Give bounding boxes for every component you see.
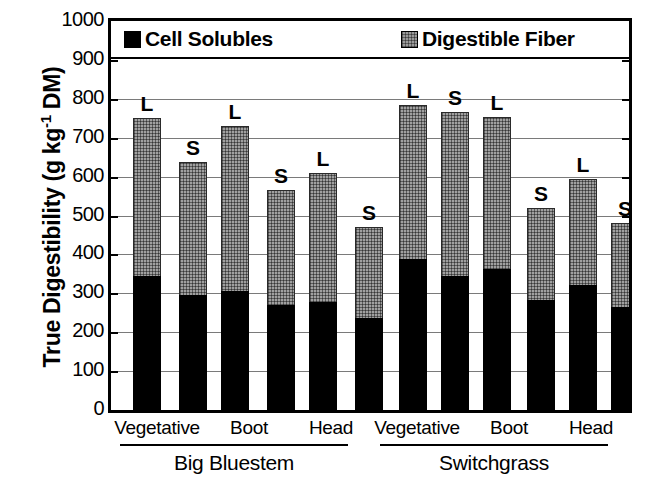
legend-label-cell-solubles: Cell Solubles (145, 27, 273, 51)
group-label-switchgrass: Switchgrass (380, 449, 608, 477)
bar-value-label-switchgrass-boot-l: L (482, 92, 512, 113)
y-tick-label-800: 800 (52, 87, 104, 107)
bar-segment-cell-solubles (133, 276, 161, 410)
bar-segment-cell-solubles (309, 302, 337, 410)
bar-switchgrass-vegetative-s (441, 112, 469, 410)
y-axis-tick-200 (111, 332, 118, 334)
y-tick-label-500: 500 (52, 204, 104, 224)
bar-big-bluestem-vegetative-s (179, 162, 207, 410)
bar-segment-cell-solubles (441, 276, 469, 410)
chart-legend: Cell Solubles Digestible Fiber (111, 21, 629, 59)
bar-big-bluestem-head-s (355, 227, 383, 410)
group-label-big-bluestem: Big Bluestem (120, 449, 348, 477)
gridline-800 (111, 99, 629, 100)
bar-value-label-big-bluestem-boot-l: L (220, 101, 250, 122)
bar-value-label-switchgrass-head-l: L (568, 154, 598, 175)
legend-swatch-cell-solubles (124, 31, 141, 48)
bar-segment-cell-solubles (611, 307, 629, 410)
y-axis-tick-900 (111, 60, 118, 62)
plot-area: LSLSLSLSLSLS Cell Solubles Digestible Fi… (108, 18, 632, 413)
y-axis-tick-500 (111, 216, 118, 218)
bar-value-label-switchgrass-vegetative-l: L (398, 80, 428, 101)
y-axis-tick-right-700 (622, 138, 629, 140)
bar-segment-cell-solubles (221, 291, 249, 410)
legend-label-digestible-fiber: Digestible Fiber (422, 27, 575, 51)
bar-value-label-big-bluestem-head-l: L (308, 148, 338, 169)
y-tick-label-200: 200 (52, 320, 104, 340)
bar-segment-cell-solubles (267, 305, 295, 410)
y-axis-tick-600 (111, 177, 118, 179)
y-tick-label-900: 900 (52, 48, 104, 68)
y-axis-tick-right-800 (622, 99, 629, 101)
y-tick-label-100: 100 (52, 359, 104, 379)
bar-segment-cell-solubles (527, 300, 555, 410)
bar-segment-cell-solubles (569, 285, 597, 410)
bar-big-bluestem-boot-l (221, 126, 249, 410)
bar-big-bluestem-boot-s (267, 190, 295, 410)
bar-switchgrass-vegetative-l (399, 105, 427, 410)
chart-figure: True Digestibility (g kg-1 DM) 100090080… (0, 0, 648, 498)
bar-switchgrass-head-s (611, 223, 629, 410)
bar-segment-cell-solubles (483, 269, 511, 410)
y-axis-tick-right-600 (622, 177, 629, 179)
bar-value-label-big-bluestem-boot-s: S (266, 165, 296, 186)
bar-switchgrass-boot-l (483, 117, 511, 410)
legend-item-digestible-fiber: Digestible Fiber (401, 27, 575, 51)
bar-value-label-big-bluestem-head-s: S (354, 202, 384, 223)
y-axis-tick-labels: 10009008007006005004003002001000 (52, 8, 104, 414)
legend-item-cell-solubles: Cell Solubles (124, 27, 273, 51)
group-axis-labels: Big Bluestem Switchgrass (108, 444, 632, 494)
group-rule-big-bluestem (120, 444, 348, 446)
y-tick-label-400: 400 (52, 242, 104, 262)
bar-value-label-switchgrass-boot-s: S (526, 183, 556, 204)
bar-value-label-big-bluestem-vegetative-l: L (132, 93, 162, 114)
legend-swatch-digestible-fiber (401, 31, 418, 48)
bar-big-bluestem-vegetative-l (133, 118, 161, 410)
bar-switchgrass-head-l (569, 179, 597, 410)
y-axis-tick-100 (111, 371, 118, 373)
bar-segment-cell-solubles (179, 295, 207, 410)
bar-big-bluestem-head-l (309, 173, 337, 410)
y-axis-tick-right-900 (622, 60, 629, 62)
y-tick-label-700: 700 (52, 126, 104, 146)
y-axis-tick-700 (111, 138, 118, 140)
bar-value-label-switchgrass-vegetative-s: S (440, 87, 470, 108)
bar-value-label-switchgrass-head-s: S (610, 198, 629, 219)
bar-switchgrass-boot-s (527, 208, 555, 410)
group-rule-switchgrass (380, 444, 608, 446)
bar-segment-cell-solubles (399, 259, 427, 410)
bar-value-label-big-bluestem-vegetative-s: S (178, 137, 208, 158)
category-label-sg-head: Head (536, 416, 646, 440)
y-axis-tick-800 (111, 99, 118, 101)
category-axis-labels: Vegetative Boot Head Vegetative Boot Hea… (108, 416, 632, 442)
y-tick-label-1000: 1000 (52, 9, 104, 29)
y-axis-tick-400 (111, 254, 118, 256)
bar-segment-cell-solubles (355, 318, 383, 410)
plot-inner: LSLSLSLSLSLS (111, 21, 629, 410)
y-tick-label-300: 300 (52, 281, 104, 301)
y-tick-label-0: 0 (52, 398, 104, 418)
y-axis-tick-300 (111, 293, 118, 295)
y-tick-label-600: 600 (52, 165, 104, 185)
